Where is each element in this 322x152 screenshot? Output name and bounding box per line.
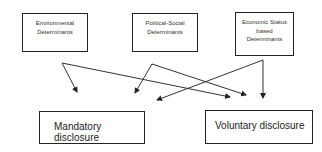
mandatory-disclosure-box: Mandatory disclosure	[39, 111, 145, 144]
box-label: Voluntary disclosure	[215, 120, 305, 131]
arrow-env-to-voluntary	[62, 63, 230, 97]
voluntary-disclosure-box: Voluntary disclosure	[205, 110, 313, 144]
arrow-env-to-mandatory	[62, 63, 77, 92]
arrow-eco-to-mandatory	[157, 60, 263, 100]
box-label: Mandatory disclosure	[54, 121, 101, 143]
